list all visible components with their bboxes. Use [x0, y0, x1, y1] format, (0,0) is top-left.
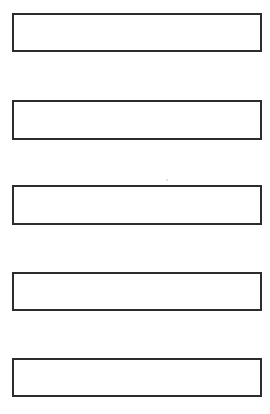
- form-field-4-value: [14, 274, 260, 309]
- form-field-3-value: [14, 187, 260, 223]
- form-field-3[interactable]: [12, 185, 262, 225]
- form-field-2[interactable]: [12, 100, 262, 140]
- form-field-5-value: [14, 360, 260, 395]
- form-field-1[interactable]: [12, 13, 262, 52]
- form-field-5[interactable]: [12, 358, 262, 397]
- form-field-4[interactable]: [12, 272, 262, 311]
- form-field-2-value: [14, 102, 260, 138]
- form-field-1-value: [14, 15, 260, 50]
- scan-speck-artifact: [166, 179, 168, 181]
- page-canvas: [0, 0, 270, 414]
